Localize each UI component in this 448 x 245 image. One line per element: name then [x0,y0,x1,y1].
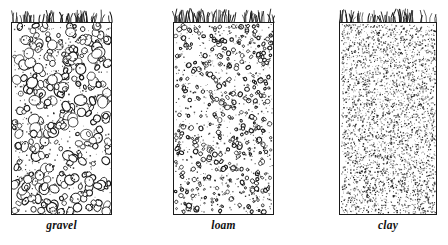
soil-box-loam [173,22,274,215]
grass-icon [336,6,440,23]
panel-label-gravel: gravel [11,219,112,231]
grass-icon [170,5,277,23]
soil-texture-pebbles [12,23,111,214]
soil-box-clay [339,22,437,215]
soil-texture-rings [174,23,273,214]
panel-label-loam: loam [173,219,274,231]
panel-label-clay: clay [339,219,437,231]
soil-box-gravel [11,22,112,215]
soil-texture-figure: gravelloamclay [0,0,448,245]
grass-icon [8,7,115,23]
soil-texture-stipple [340,23,436,214]
